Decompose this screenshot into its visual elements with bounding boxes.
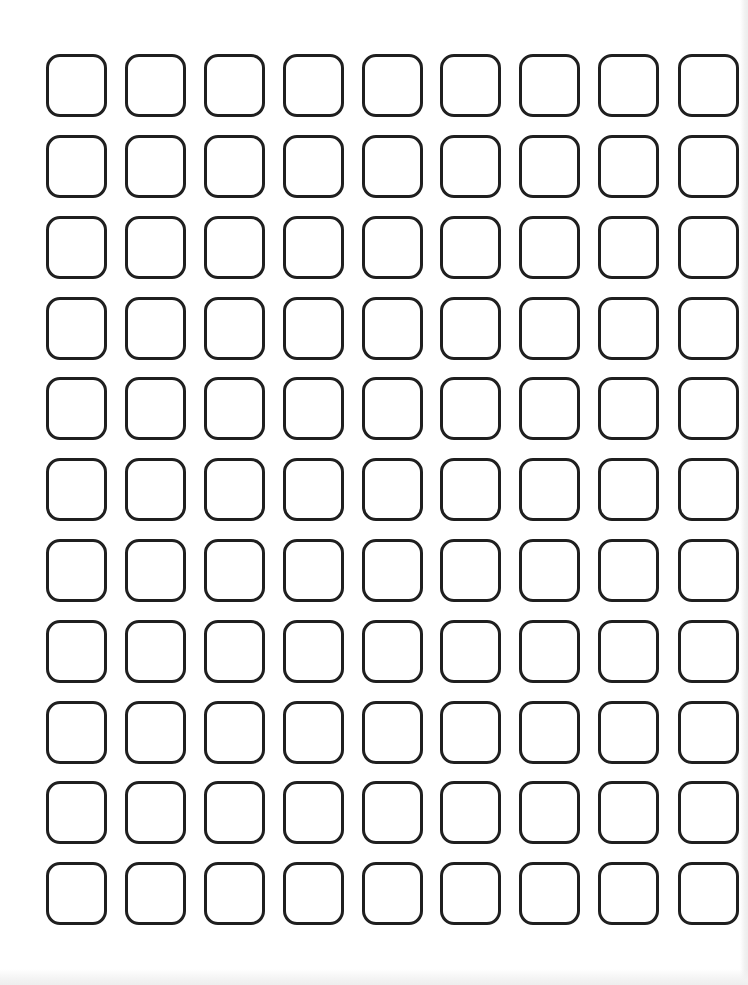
grid-box bbox=[598, 297, 659, 360]
grid-box bbox=[362, 781, 423, 844]
grid-box bbox=[362, 539, 423, 602]
grid-box bbox=[125, 862, 186, 925]
grid-box bbox=[283, 54, 344, 117]
grid-box bbox=[598, 781, 659, 844]
grid-box bbox=[283, 135, 344, 198]
grid-box bbox=[519, 862, 580, 925]
grid-box bbox=[440, 216, 501, 279]
grid-box bbox=[204, 458, 265, 521]
grid-box bbox=[598, 216, 659, 279]
grid-box bbox=[440, 458, 501, 521]
grid-box bbox=[204, 701, 265, 764]
grid-box bbox=[678, 135, 739, 198]
grid-box bbox=[46, 539, 107, 602]
grid-box bbox=[125, 781, 186, 844]
grid-box bbox=[678, 297, 739, 360]
grid-box bbox=[283, 862, 344, 925]
grid-box bbox=[283, 458, 344, 521]
grid-box bbox=[46, 458, 107, 521]
grid-box bbox=[46, 297, 107, 360]
grid-box bbox=[440, 620, 501, 683]
grid-box bbox=[125, 377, 186, 440]
grid-box bbox=[598, 539, 659, 602]
grid-box bbox=[598, 620, 659, 683]
grid-box bbox=[519, 539, 580, 602]
grid-box bbox=[440, 377, 501, 440]
grid-box bbox=[204, 781, 265, 844]
grid-box bbox=[125, 701, 186, 764]
grid-box bbox=[46, 701, 107, 764]
grid-box bbox=[46, 781, 107, 844]
grid-box bbox=[519, 377, 580, 440]
grid-box bbox=[362, 862, 423, 925]
grid-box bbox=[678, 701, 739, 764]
grid-box bbox=[46, 620, 107, 683]
grid-box bbox=[678, 54, 739, 117]
grid-box bbox=[125, 620, 186, 683]
grid-box bbox=[125, 458, 186, 521]
grid-box bbox=[519, 458, 580, 521]
page-right-edge-shadow bbox=[740, 0, 748, 985]
grid-box bbox=[125, 216, 186, 279]
grid-box bbox=[519, 216, 580, 279]
grid-box bbox=[283, 297, 344, 360]
grid-box bbox=[678, 458, 739, 521]
grid-box bbox=[46, 54, 107, 117]
grid-box bbox=[519, 54, 580, 117]
grid-box bbox=[598, 135, 659, 198]
page-bottom-edge-shadow bbox=[0, 969, 748, 985]
grid-box bbox=[204, 216, 265, 279]
grid-box bbox=[283, 216, 344, 279]
grid-box bbox=[440, 781, 501, 844]
grid-box bbox=[362, 701, 423, 764]
grid-box bbox=[204, 135, 265, 198]
grid-box bbox=[362, 297, 423, 360]
grid-box bbox=[46, 862, 107, 925]
grid-box bbox=[678, 620, 739, 683]
grid-box bbox=[678, 862, 739, 925]
grid-box bbox=[125, 135, 186, 198]
grid-box bbox=[283, 620, 344, 683]
grid-box bbox=[46, 216, 107, 279]
grid-box bbox=[519, 135, 580, 198]
grid-box bbox=[204, 54, 265, 117]
grid-box bbox=[46, 377, 107, 440]
grid-box bbox=[46, 135, 107, 198]
grid-box bbox=[204, 377, 265, 440]
grid-box bbox=[362, 620, 423, 683]
grid-box bbox=[598, 377, 659, 440]
grid-box bbox=[678, 377, 739, 440]
grid-box bbox=[440, 297, 501, 360]
grid-box bbox=[362, 54, 423, 117]
grid-box bbox=[678, 216, 739, 279]
grid-box bbox=[362, 458, 423, 521]
grid-box bbox=[519, 620, 580, 683]
grid-box bbox=[440, 54, 501, 117]
grid-box bbox=[440, 701, 501, 764]
grid-box bbox=[283, 377, 344, 440]
grid-box bbox=[362, 135, 423, 198]
grid-box bbox=[519, 297, 580, 360]
grid-box bbox=[204, 539, 265, 602]
worksheet-page bbox=[0, 0, 748, 985]
grid-box bbox=[440, 539, 501, 602]
box-grid bbox=[0, 0, 748, 985]
grid-box bbox=[204, 620, 265, 683]
grid-box bbox=[125, 297, 186, 360]
grid-box bbox=[598, 458, 659, 521]
grid-box bbox=[204, 297, 265, 360]
grid-box bbox=[362, 377, 423, 440]
grid-box bbox=[598, 862, 659, 925]
grid-box bbox=[678, 781, 739, 844]
grid-box bbox=[440, 135, 501, 198]
grid-box bbox=[678, 539, 739, 602]
grid-box bbox=[440, 862, 501, 925]
grid-box bbox=[125, 539, 186, 602]
grid-box bbox=[598, 54, 659, 117]
grid-box bbox=[204, 862, 265, 925]
grid-box bbox=[519, 781, 580, 844]
grid-box bbox=[283, 701, 344, 764]
grid-box bbox=[283, 781, 344, 844]
grid-box bbox=[519, 701, 580, 764]
grid-box bbox=[362, 216, 423, 279]
